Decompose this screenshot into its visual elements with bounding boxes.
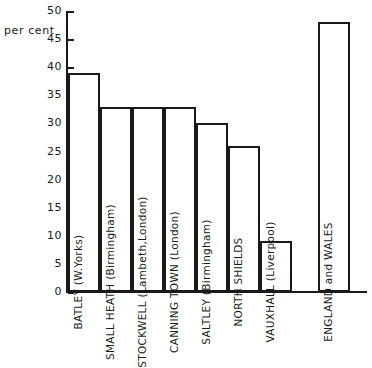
y-axis-tick: 45 — [0, 39, 74, 40]
bar-category-label: ENGLAND and WALES — [323, 222, 334, 342]
y-axis-tick-label: 15 — [47, 201, 62, 214]
bar-category-label: NORTH SHIELDS — [233, 237, 244, 326]
y-axis-tick: 10 — [0, 236, 74, 237]
y-axis-tick: 50 — [0, 11, 74, 12]
y-axis-tick: 5 — [0, 264, 74, 265]
y-axis-tick: 0 — [0, 292, 74, 293]
plot-area: BATLEY (W.Yorks)SMALL HEATH (Birmingham)… — [68, 11, 367, 292]
y-axis-tick-label: 10 — [47, 229, 62, 242]
y-axis-tick: 30 — [0, 123, 74, 124]
y-axis-tick: 25 — [0, 152, 74, 153]
y-axis-tick: 15 — [0, 208, 74, 209]
y-axis-tick-label: 35 — [47, 88, 62, 101]
y-axis-tick: 35 — [0, 95, 74, 96]
y-axis-tick-label: 5 — [55, 257, 63, 270]
y-axis-tick: 40 — [0, 67, 74, 68]
bar-category-label: SALTLEY (Birmingham) — [201, 219, 212, 344]
bar-category-label: BATLEY (W.Yorks) — [73, 234, 84, 329]
y-axis-tick-label: 40 — [47, 60, 62, 73]
bar-category-label: STOCKWELL (Lambeth,London) — [137, 196, 148, 367]
y-axis-tick: 20 — [0, 180, 74, 181]
y-axis-tick-label: 50 — [47, 4, 62, 17]
y-axis-tick-label: 30 — [47, 116, 62, 129]
y-axis-tick-label: 20 — [47, 173, 62, 186]
bar-category-label: CANNING TOWN (London) — [169, 211, 180, 353]
bar-category-label: SMALL HEATH (Birmingham) — [105, 204, 116, 360]
bar-category-label: VAUXHALL (Liverpool) — [265, 221, 276, 342]
y-axis-tick-label: 45 — [47, 32, 62, 45]
y-axis-tick-label: 0 — [55, 285, 63, 298]
y-axis-tick-label: 25 — [47, 145, 62, 158]
